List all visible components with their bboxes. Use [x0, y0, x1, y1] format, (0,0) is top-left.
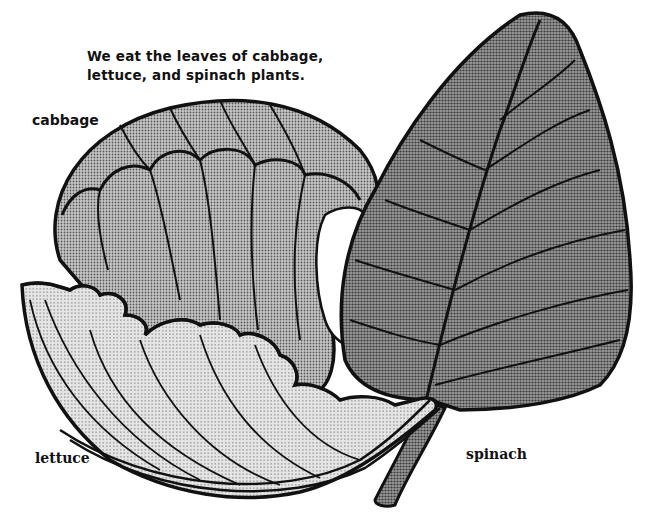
diagram-canvas: We eat the leaves of cabbage, lettuce, a…: [0, 0, 646, 519]
diagram-caption: We eat the leaves of cabbage, lettuce, a…: [87, 47, 323, 85]
label-cabbage: cabbage: [32, 112, 99, 128]
label-lettuce: lettuce: [35, 450, 90, 466]
caption-line-1: We eat the leaves of cabbage,: [87, 47, 323, 66]
caption-line-2: lettuce, and spinach plants.: [87, 66, 323, 85]
label-spinach: spinach: [466, 446, 527, 462]
